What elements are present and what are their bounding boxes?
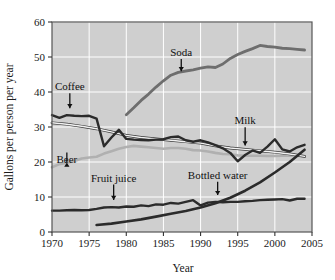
x-tick-label: 1985 (152, 237, 175, 249)
annotation-beer: Beer (56, 152, 77, 166)
x-tick-label: 1970 (41, 237, 64, 249)
y-tick-label: 20 (34, 156, 46, 168)
x-tick-label: 1980 (115, 237, 138, 249)
chart-canvas: 19701975198019851990199520002005 0102030… (0, 0, 335, 280)
annotation-label-coffee: Coffee (55, 80, 85, 92)
beverage-consumption-chart: 19701975198019851990199520002005 0102030… (0, 0, 335, 280)
annotation-label-soda: Soda (170, 46, 192, 58)
y-tick-label: 60 (34, 16, 46, 28)
x-tick-label: 1995 (227, 237, 250, 249)
annotation-label-bottled-water: Bottled water (188, 169, 248, 181)
x-tick-label: 1990 (190, 237, 213, 249)
y-tick-label: 30 (34, 121, 46, 133)
x-tick-label: 1975 (78, 237, 101, 249)
y-axis-title: Gallons per person per year (3, 63, 16, 190)
y-tick-label: 0 (40, 226, 46, 238)
y-tick-label: 50 (34, 51, 46, 63)
annotation-label-milk: Milk (234, 114, 256, 126)
y-tick-label: 40 (34, 86, 46, 98)
annotation-label-fruit-juice: Fruit juice (91, 172, 137, 184)
y-tick-label: 10 (34, 191, 46, 203)
x-tick-label: 2000 (264, 237, 287, 249)
x-tick-label: 2005 (301, 237, 324, 249)
x-axis-title: Year (172, 262, 193, 274)
